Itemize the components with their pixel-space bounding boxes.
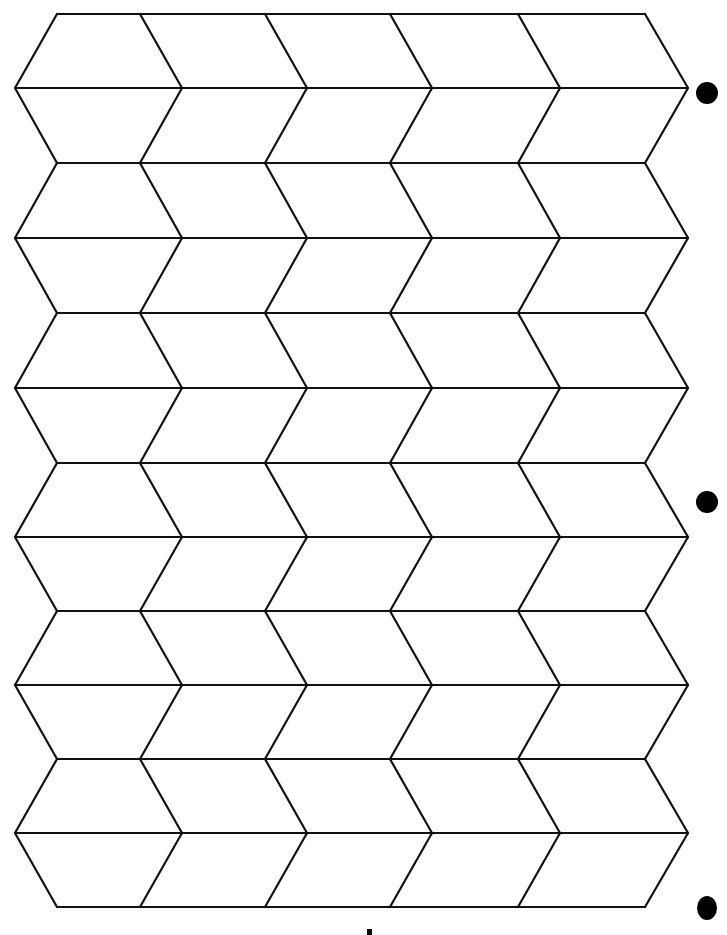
slanted-edge: [518, 388, 560, 463]
slanted-edge: [390, 759, 432, 833]
slanted-edge: [265, 537, 307, 611]
binder-hole-dot: [696, 82, 718, 104]
slanted-edge: [518, 14, 560, 88]
slanted-edge: [15, 238, 57, 313]
slanted-edge: [645, 163, 688, 238]
slanted-edge: [645, 88, 688, 163]
slanted-edge: [140, 759, 182, 833]
slanted-edge: [265, 88, 307, 163]
slanted-edge: [390, 685, 432, 759]
slanted-edge: [645, 759, 688, 833]
slanted-edge: [15, 537, 57, 611]
binder-hole-dot: [697, 896, 717, 920]
slanted-edge: [518, 163, 560, 238]
slanted-edge: [140, 238, 182, 313]
slanted-edge: [140, 163, 182, 238]
slanted-edge: [518, 833, 560, 907]
slanted-edge: [518, 463, 560, 537]
slanted-edge: [15, 759, 57, 833]
slanted-edge: [265, 313, 307, 388]
slanted-edge: [265, 759, 307, 833]
slanted-edge: [390, 313, 432, 388]
slanted-edge: [518, 238, 560, 313]
slanted-edge: [645, 14, 688, 88]
slanted-edge: [518, 685, 560, 759]
slanted-edge: [15, 463, 57, 537]
slanted-edge: [645, 833, 688, 907]
slanted-edge: [265, 14, 307, 88]
slanted-edge: [265, 685, 307, 759]
slanted-edge: [15, 14, 57, 88]
slanted-edge: [140, 463, 182, 537]
slanted-edge: [265, 463, 307, 537]
bottom-tick-mark: [367, 929, 372, 935]
slanted-edge: [15, 685, 57, 759]
slanted-edge: [518, 88, 560, 163]
slanted-edge: [390, 14, 432, 88]
slanted-edge: [15, 388, 57, 463]
slanted-edge: [518, 611, 560, 685]
slanted-edge: [645, 238, 688, 313]
tessellation-grid: [0, 0, 727, 935]
slanted-edge: [645, 388, 688, 463]
slanted-edge: [645, 537, 688, 611]
slanted-edge: [645, 611, 688, 685]
slanted-edge: [265, 833, 307, 907]
slanted-edge: [140, 313, 182, 388]
slanted-edge: [140, 88, 182, 163]
slanted-edge: [140, 685, 182, 759]
slanted-edge: [265, 238, 307, 313]
slanted-edge: [390, 88, 432, 163]
slanted-edge: [265, 388, 307, 463]
slanted-edge: [518, 537, 560, 611]
slanted-edge: [390, 163, 432, 238]
slanted-edge: [645, 685, 688, 759]
slanted-edge: [390, 388, 432, 463]
slanted-edge: [265, 163, 307, 238]
slanted-edge: [15, 611, 57, 685]
slanted-edge: [265, 611, 307, 685]
slanted-edge: [390, 463, 432, 537]
slanted-edge: [140, 611, 182, 685]
slanted-edge: [645, 313, 688, 388]
slanted-edge: [15, 163, 57, 238]
slanted-edge: [390, 833, 432, 907]
slanted-edge: [645, 463, 688, 537]
slanted-edge: [15, 833, 57, 907]
slanted-edge: [390, 238, 432, 313]
slanted-edge: [15, 88, 57, 163]
slanted-edge: [15, 313, 57, 388]
slanted-edge: [518, 313, 560, 388]
binder-hole-dot: [696, 491, 718, 513]
slanted-edge: [140, 14, 182, 88]
slanted-edge: [390, 611, 432, 685]
slanted-edge: [140, 537, 182, 611]
slanted-edge: [140, 388, 182, 463]
slanted-edge: [140, 833, 182, 907]
slanted-edge: [390, 537, 432, 611]
slanted-edge: [518, 759, 560, 833]
